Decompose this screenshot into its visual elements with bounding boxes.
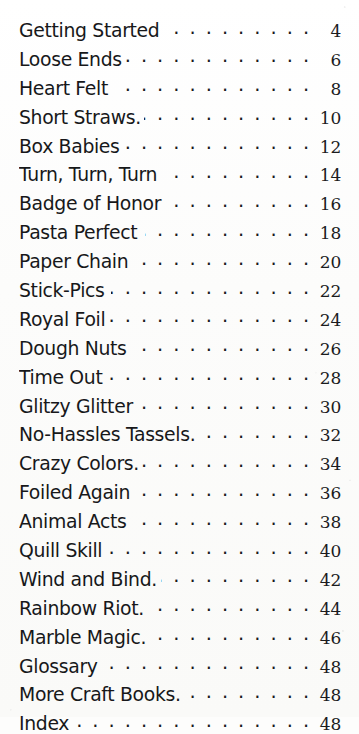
toc-entry-page-number: 42 [312,570,341,590]
toc-entry-page-number: 48 [312,685,341,705]
toc-entry-page-number: 34 [312,454,341,474]
toc-entry[interactable]: Foiled Again36 [19,481,341,510]
toc-entry-page-number: 24 [312,310,341,330]
toc-leader-dots [103,657,311,673]
toc-entry[interactable]: Turn, Turn, Turn14 [19,163,341,192]
toc-entry[interactable]: Glitzy Glitter30 [19,395,341,424]
toc-leader-dots [133,483,311,499]
toc-entry-page-number: 4 [312,21,341,41]
toc-entry[interactable]: Badge of Honor16 [19,192,341,221]
toc-entry-title: Foiled Again [19,481,131,504]
toc-entry[interactable]: Pasta Perfect18 [19,221,341,250]
toc-entry-title: Wind and Bind. [19,568,158,591]
toc-entry[interactable]: Marble Magic.46 [19,626,341,655]
toc-entry-title: Pasta Perfect [19,221,138,244]
toc-entry-page-number: 10 [312,108,341,128]
toc-entry-title: Glitzy Glitter [19,395,134,418]
toc-entry-title: Loose Ends [19,48,123,71]
toc-leader-dots [126,137,311,153]
toc-entry-page-number: 18 [312,223,341,243]
toc-entry-page-number: 48 [312,714,341,734]
toc-leader-dots [114,79,311,95]
toc-entry[interactable]: Paper Chain20 [19,250,341,279]
toc-leader-dots [144,108,311,124]
toc-entry-title: Quill Skill [19,539,103,562]
toc-entry-page-number: 36 [312,483,341,503]
toc-entry-page-number: 26 [312,339,341,359]
toc-entry-title: Royal Foil [19,308,106,331]
toc-entry-title: Crazy Colors. [19,452,140,475]
toc-entry-page-number: 16 [312,194,341,214]
toc-leader-dots [124,50,311,66]
toc-entry[interactable]: Time Out28 [19,366,341,395]
toc-entry[interactable]: Stick-Pics22 [19,279,341,308]
toc-entry-page-number: 22 [312,281,341,301]
toc-entry-title: Glossary [19,655,99,678]
toc-entry-title: More Craft Books. [19,683,182,706]
toc-entry[interactable]: Quill Skill40 [19,539,341,568]
toc-entry-list: Getting Started4Loose Ends6Heart Felt8Sh… [19,19,341,734]
toc-entry-page-number: 32 [312,425,341,445]
toc-entry[interactable]: Rainbow Riot.44 [19,597,341,626]
toc-entry-page-number: 20 [312,252,341,272]
toc-entry-title: Index [19,712,70,734]
toc-entry-page-number: 8 [312,79,341,99]
toc-entry-title: Badge of Honor [19,192,162,215]
toc-entry-page-number: 48 [312,657,341,677]
toc-entry-page-number: 30 [312,397,341,417]
toc-entry-title: Animal Acts [19,510,127,533]
toc-leader-dots [161,570,311,586]
toc-entry-page-number: 28 [312,368,341,388]
toc-entry-page-number: 14 [312,165,341,185]
toc-entry[interactable]: Loose Ends6 [19,48,341,77]
toc-leader-dots [74,714,311,730]
toc-leader-dots [108,541,311,557]
toc-leader-dots [136,397,311,413]
toc-entry-title: Dough Nuts [19,337,128,360]
toc-leader-dots [111,281,311,297]
toc-leader-dots [142,454,311,470]
toc-leader-dots [164,21,311,37]
toc-entry[interactable]: Heart Felt8 [19,77,341,106]
toc-entry-page-number: 12 [312,137,341,157]
toc-entry-page-number: 44 [312,599,341,619]
toc-entry-title: Marble Magic. [19,626,147,649]
toc-entry-title: Paper Chain [19,250,129,273]
toc-entry-title: Stick-Pics [19,279,105,302]
toc-leader-dots [185,685,311,701]
toc-entry[interactable]: Crazy Colors.34 [19,452,341,481]
toc-entry-title: Turn, Turn, Turn [19,163,158,186]
toc-leader-dots [169,194,311,210]
toc-entry-page-number: 40 [312,541,341,561]
toc-entry[interactable]: Dough Nuts26 [19,337,341,366]
toc-entry[interactable]: Short Straws.10 [19,106,341,135]
toc-leader-dots [201,425,311,441]
toc-entry-title: Box Babies [19,135,121,158]
toc-leader-dots [108,368,311,384]
toc-leader-dots [148,599,312,615]
toc-entry[interactable]: Glossary48 [19,655,341,684]
toc-leader-dots [150,628,311,644]
toc-leader-dots [145,223,311,239]
toc-entry-title: Time Out [19,366,103,389]
toc-entry-title: Short Straws. [19,106,142,129]
toc-leader-dots [108,310,312,326]
toc-leader-dots [134,339,312,355]
toc-entry-title: Heart Felt [19,77,109,100]
toc-leader-dots [133,512,311,528]
toc-entry[interactable]: Index48 [19,712,341,734]
toc-leader-dots [131,252,311,268]
toc-leader-dots [165,165,311,181]
toc-entry-page-number: 38 [312,512,341,532]
toc-entry[interactable]: Getting Started4 [19,19,341,48]
toc-entry-title: Rainbow Riot. [19,597,145,620]
toc-entry[interactable]: Wind and Bind.42 [19,568,341,597]
toc-entry[interactable]: More Craft Books.48 [19,683,341,712]
toc-entry[interactable]: Box Babies12 [19,135,341,164]
toc-entry[interactable]: No-Hassles Tassels.32 [19,423,341,452]
toc-entry[interactable]: Royal Foil24 [19,308,341,337]
toc-entry-page-number: 6 [312,50,341,70]
toc-entry-title: Getting Started [19,19,160,42]
toc-entry[interactable]: Animal Acts38 [19,510,341,539]
